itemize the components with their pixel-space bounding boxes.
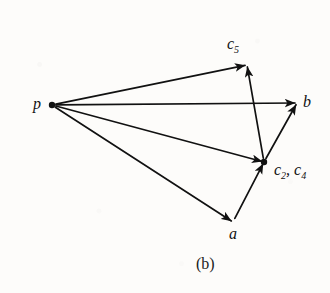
edge-p-to-c2c4 (56, 106, 262, 161)
edge-p-to-c5 (56, 65, 245, 104)
node-dot-p (49, 102, 55, 108)
figure-panel: p c5 b c2, c4 a (b) (0, 0, 330, 293)
edge-c2c4-to-c5 (247, 67, 263, 158)
node-label-c5: c5 (227, 36, 239, 55)
node-label-b: b (303, 94, 311, 110)
edge-a-to-c2c4 (235, 164, 263, 219)
node-dot-c2c4 (261, 159, 267, 165)
graph-canvas (0, 0, 330, 293)
edge-c2c4-to-b (266, 105, 296, 159)
figure-caption: (b) (196, 256, 215, 272)
edge-p-to-a (55, 107, 231, 221)
edge-p-to-b (56, 103, 295, 105)
node-label-p: p (33, 96, 41, 112)
node-label-a: a (229, 226, 237, 242)
node-label-c2-c4: c2, c4 (274, 162, 306, 181)
